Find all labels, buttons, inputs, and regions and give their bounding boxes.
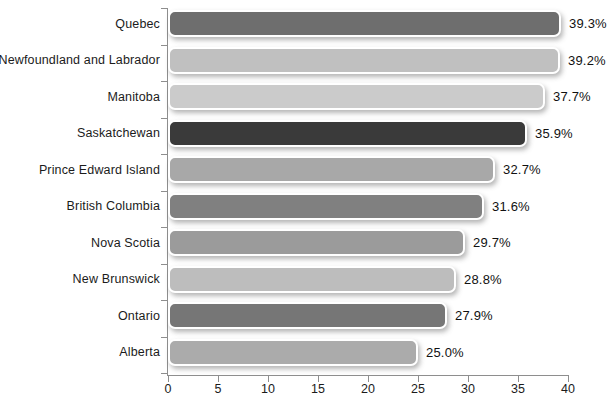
bar-value-label: 37.7%	[553, 83, 591, 110]
bar-value-label: 39.2%	[568, 47, 606, 74]
x-tick-label: 35	[511, 382, 525, 396]
category-label: Newfoundland and Labrador	[0, 53, 160, 67]
bar-value-label: 28.8%	[464, 266, 502, 293]
y-tick	[161, 191, 167, 192]
y-tick	[161, 227, 167, 228]
x-tick-label: 40	[561, 382, 575, 396]
bar	[168, 193, 484, 220]
bar	[168, 120, 527, 147]
y-tick	[161, 154, 167, 155]
x-tick-label: 0	[165, 382, 172, 396]
category-label: Saskatchewan	[77, 126, 160, 140]
category-label: New Brunswick	[73, 272, 160, 286]
bar-value-label: 27.9%	[455, 302, 493, 329]
x-tick-label: 10	[261, 382, 275, 396]
category-label: Ontario	[118, 309, 160, 323]
bar	[168, 83, 545, 110]
bar	[168, 156, 495, 183]
bar	[168, 47, 560, 74]
category-label: Prince Edward Island	[39, 163, 160, 177]
x-tick-label: 20	[361, 382, 375, 396]
bar	[168, 229, 465, 256]
category-label: British Columbia	[67, 199, 160, 213]
y-tick	[161, 373, 167, 374]
y-tick	[161, 337, 167, 338]
bar-value-label: 39.3%	[569, 10, 607, 37]
category-label: Quebec	[115, 17, 160, 31]
bar-value-label: 32.7%	[503, 156, 541, 183]
bar	[168, 266, 456, 293]
x-tick-label: 5	[215, 382, 222, 396]
y-tick	[161, 45, 167, 46]
bar-value-label: 25.0%	[426, 339, 464, 366]
y-tick	[161, 81, 167, 82]
x-tick-label: 30	[461, 382, 475, 396]
bar-value-label: 29.7%	[473, 229, 511, 256]
y-tick	[161, 118, 167, 119]
bar	[168, 10, 561, 37]
x-tick-label: 25	[411, 382, 425, 396]
y-tick	[161, 8, 167, 9]
x-tick-label: 15	[311, 382, 325, 396]
y-tick	[161, 300, 167, 301]
bar	[168, 339, 418, 366]
category-label: Alberta	[119, 345, 160, 359]
bar-value-label: 31.6%	[492, 193, 530, 220]
bar	[168, 302, 447, 329]
category-label: Nova Scotia	[91, 236, 160, 250]
bar-value-label: 35.9%	[535, 120, 573, 147]
category-label: Manitoba	[107, 90, 160, 104]
y-tick	[161, 264, 167, 265]
